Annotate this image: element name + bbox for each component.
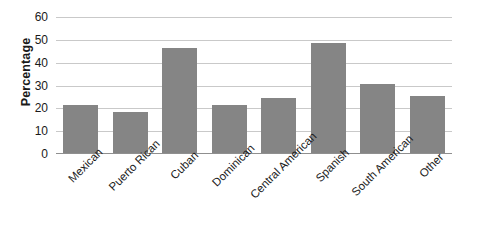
y-axis-tick-label: 0 — [0, 147, 48, 161]
bar-slot — [155, 17, 205, 154]
bar-slot — [205, 17, 255, 154]
y-axis-tick-label: 40 — [0, 56, 48, 70]
bar-slot — [403, 17, 453, 154]
y-axis-tick-labels: 6050403020100 — [0, 0, 54, 241]
bar[interactable] — [63, 105, 98, 154]
bar-slot — [56, 17, 106, 154]
plot-area — [56, 17, 452, 154]
y-axis-tick-label: 20 — [0, 101, 48, 115]
bar-slot — [106, 17, 156, 154]
bar[interactable] — [261, 98, 296, 154]
bar-series — [56, 17, 452, 154]
y-axis-tick-label: 60 — [0, 10, 48, 24]
x-label-slot: Mexican — [56, 155, 106, 241]
x-label-slot: Other — [403, 155, 453, 241]
bar-chart: Percentage 6050403020100 MexicanPuerto R… — [0, 0, 477, 241]
x-axis-tick-label: Other — [417, 151, 446, 180]
bar[interactable] — [410, 96, 445, 154]
bar[interactable] — [162, 48, 197, 154]
x-label-slot: South American — [353, 155, 403, 241]
x-label-slot: Central American — [254, 155, 304, 241]
bar[interactable] — [360, 84, 395, 154]
y-axis-tick-label: 50 — [0, 33, 48, 47]
x-label-slot: Spanish — [304, 155, 354, 241]
bar-slot — [353, 17, 403, 154]
y-axis-tick-label: 10 — [0, 124, 48, 138]
x-label-slot: Cuban — [155, 155, 205, 241]
x-axis-tick-labels: MexicanPuerto RicanCubanDominicanCentral… — [56, 155, 452, 241]
y-axis-tick-label: 30 — [0, 79, 48, 93]
bar-slot — [254, 17, 304, 154]
x-label-slot: Puerto Rican — [106, 155, 156, 241]
x-label-slot: Dominican — [205, 155, 255, 241]
